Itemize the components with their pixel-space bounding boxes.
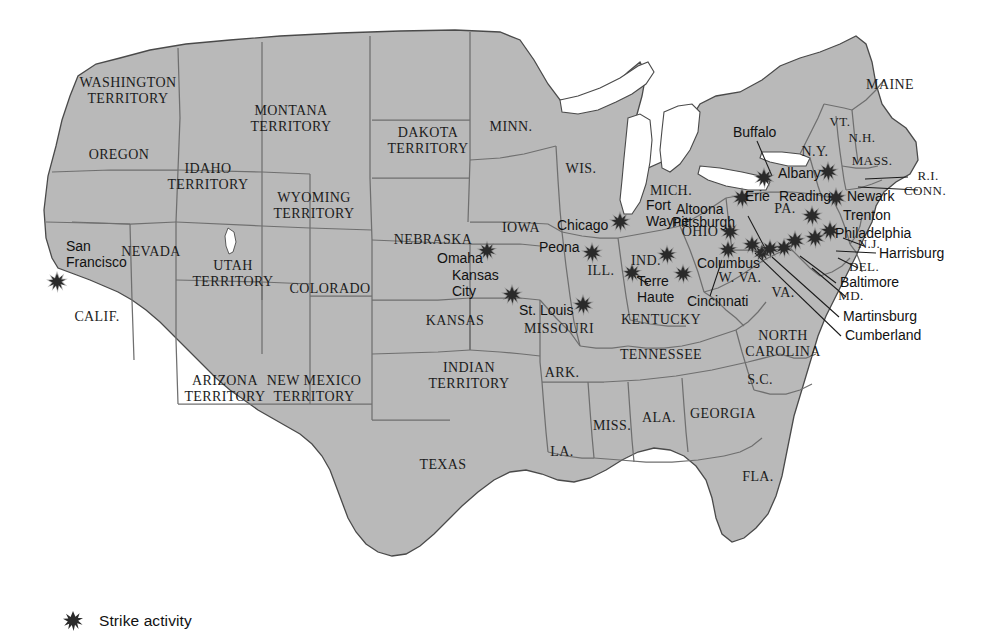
- state-label: MD.: [838, 288, 863, 303]
- state-label: N.Y.: [801, 144, 828, 159]
- state-label: ILL.: [588, 263, 615, 278]
- legend-label: Strike activity: [99, 612, 192, 630]
- state-label: MONTANATERRITORY: [250, 103, 331, 134]
- state-label: IOWA: [502, 220, 541, 235]
- state-label: NEVADA: [121, 244, 181, 259]
- state-label: N.H.: [849, 130, 876, 145]
- state-label: MINN.: [490, 119, 533, 134]
- state-label: WIS.: [566, 161, 597, 176]
- state-label: MISS.: [593, 418, 631, 433]
- state-label: WYOMINGTERRITORY: [273, 190, 354, 221]
- state-label: LA.: [550, 444, 573, 459]
- city-label: Philadelphia: [835, 225, 911, 241]
- city-label: Trenton: [843, 207, 891, 223]
- city-label: Martinsburg: [843, 308, 917, 324]
- state-label: DAKOTATERRITORY: [387, 125, 468, 156]
- lake-superior: [560, 62, 654, 114]
- city-label: Cincinnati: [687, 293, 748, 309]
- city-label: Harrisburg: [879, 245, 944, 261]
- city-label: Peona: [539, 239, 580, 255]
- city-label: Newark: [847, 188, 895, 204]
- city-label: Chicago: [557, 217, 609, 233]
- city-label: St. Louis: [519, 302, 573, 318]
- state-label: VT.: [830, 114, 851, 129]
- state-label: DEL.: [849, 259, 879, 274]
- state-label: KANSAS: [426, 313, 484, 328]
- state-label: NEW MEXICOTERRITORY: [267, 373, 361, 404]
- city-label: Omaha: [437, 250, 483, 266]
- state-label: MAINE: [866, 77, 914, 92]
- strike-marker[interactable]: San Francisco: [46, 271, 68, 293]
- city-label: Reading: [779, 188, 831, 204]
- state-label: VA.: [771, 285, 794, 300]
- state-label: NEBRASKA: [394, 232, 473, 247]
- state-label: CONN.: [904, 183, 946, 198]
- state-label: MISSOURI: [524, 321, 594, 336]
- state-label: MASS.: [852, 153, 893, 168]
- state-label: FLA.: [742, 469, 774, 484]
- city-label: Columbus: [697, 255, 760, 271]
- city-label: Buffalo: [733, 124, 777, 140]
- state-label: CALIF.: [74, 309, 119, 324]
- state-label: R.I.: [917, 168, 938, 183]
- state-label: OREGON: [89, 147, 150, 162]
- city-label: Albany: [778, 165, 821, 181]
- map-legend: Strike activity: [60, 608, 192, 634]
- state-label: KENTUCKY: [621, 312, 701, 327]
- state-label: S.C.: [747, 372, 773, 387]
- state-label: ARK.: [545, 365, 580, 380]
- state-label: W. VA.: [719, 270, 762, 285]
- strike-activity-marker-icon: [60, 608, 86, 634]
- city-label: Pittsburgh: [672, 214, 735, 230]
- state-label: IND.: [631, 253, 661, 268]
- state-label: TEXAS: [419, 457, 466, 472]
- state-label: COLORADO: [290, 281, 371, 296]
- city-label: Cumberland: [845, 327, 921, 343]
- state-label: ALA.: [642, 410, 676, 425]
- state-label: ARIZONATERRITORY: [184, 373, 265, 404]
- state-label: WASHINGTONTERRITORY: [79, 75, 176, 106]
- us-strike-map: San FranciscoOmahaKansas CitySt. LouisCh…: [0, 0, 992, 641]
- state-label: TENNESSEE: [620, 347, 702, 362]
- city-label: Baltimore: [840, 274, 899, 290]
- state-label: GEORGIA: [690, 406, 756, 421]
- city-label: Erie: [745, 188, 770, 204]
- map-container: San FranciscoOmahaKansas CitySt. LouisCh…: [0, 0, 992, 641]
